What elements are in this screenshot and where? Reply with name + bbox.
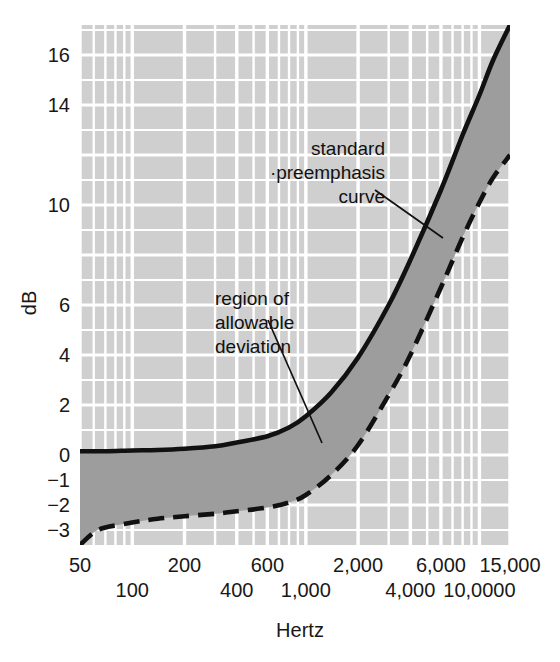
- chart-canvas: 1614106420−1−2−3 502006002,0006,00015,00…: [0, 0, 560, 662]
- y-axis-tick-label: 4: [59, 344, 70, 366]
- annotation-line: curve: [339, 186, 385, 207]
- x-axis-tick-labels-lower: 1004001,0004,00010,0000: [116, 579, 516, 601]
- y-axis-tick-label: −3: [47, 519, 70, 541]
- y-axis-tick-label: −2: [47, 494, 70, 516]
- y-axis-tick-label: 14: [48, 94, 70, 116]
- annotation-line: region of: [215, 288, 290, 309]
- x-axis-tick-label: 600: [251, 554, 284, 576]
- x-axis-tick-labels-upper: 502006002,0006,00015,000: [69, 554, 541, 576]
- x-axis-tick-label: 2,000: [333, 554, 383, 576]
- x-axis-tick-label: 400: [220, 579, 253, 601]
- y-axis-tick-labels: 1614106420−1−2−3: [47, 44, 70, 541]
- x-axis-tick-label: 200: [168, 554, 201, 576]
- y-axis-title: dB: [18, 291, 40, 315]
- x-axis-tick-label: 15,000: [479, 554, 540, 576]
- preemphasis-curve-chart: 1614106420−1−2−3 502006002,0006,00015,00…: [0, 0, 560, 662]
- y-axis-tick-label: 0: [59, 444, 70, 466]
- x-axis-tick-label: 50: [69, 554, 91, 576]
- x-axis-tick-label: 6,000: [416, 554, 466, 576]
- y-axis-tick-label: 6: [59, 294, 70, 316]
- annotation-line: ·preemphasis: [270, 162, 385, 183]
- x-axis-title: Hertz: [276, 619, 324, 641]
- y-axis-tick-label: 16: [48, 44, 70, 66]
- y-axis-tick-label: 10: [48, 194, 70, 216]
- y-axis-tick-label: −1: [47, 469, 70, 491]
- x-axis-tick-label: 1,000: [281, 579, 331, 601]
- annotation-line: standard: [311, 138, 385, 159]
- region-of-allowable-deviation-label: region ofallowabledeviation: [215, 288, 294, 357]
- annotation-line: allowable: [215, 312, 294, 333]
- y-axis-tick-label: 2: [59, 394, 70, 416]
- x-axis-tick-label: 4,000: [385, 579, 435, 601]
- x-axis-tick-label: 10,0000: [443, 579, 515, 601]
- x-axis-tick-label: 100: [116, 579, 149, 601]
